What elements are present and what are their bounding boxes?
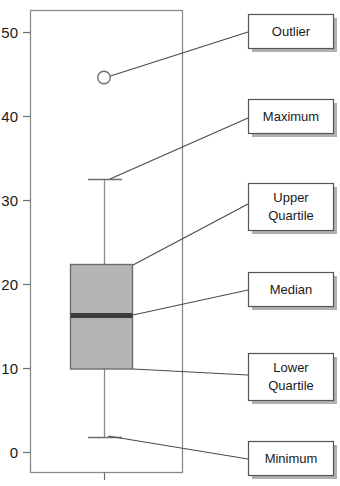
leader-line-lower-quartile (133, 369, 248, 375)
callout-shadows (252, 18, 337, 479)
y-tick-label-30: 30 (1, 192, 18, 209)
callout-maximum[interactable]: Maximum (249, 100, 334, 134)
callout-label-upper-quartile-line1: Upper (273, 190, 309, 205)
callout-upper-quartile[interactable]: Upper Quartile (249, 184, 334, 231)
leader-line-upper-quartile (133, 204, 248, 265)
y-tick-label-50: 50 (1, 24, 18, 41)
callout-median[interactable]: Median (249, 273, 334, 307)
leader-line-median (133, 290, 248, 315)
callout-label-lower-quartile-line2: Quartile (268, 378, 314, 393)
callout-outlier[interactable]: Outlier (249, 15, 334, 49)
leader-lines (108, 32, 248, 459)
callout-label-minimum: Minimum (265, 451, 318, 466)
box-plot-canvas: 50 40 30 20 10 0 (0, 0, 340, 486)
callout-lower-quartile[interactable]: Lower Quartile (249, 354, 334, 401)
boxplot-group (71, 71, 133, 437)
leader-line-maximum (110, 118, 248, 179)
y-axis-ticks (23, 33, 31, 453)
y-tick-label-20: 20 (1, 276, 18, 293)
y-tick-label-40: 40 (1, 108, 18, 125)
y-axis-tick-labels: 50 40 30 20 10 0 (1, 24, 18, 461)
callout-label-median: Median (270, 282, 313, 297)
callout-minimum[interactable]: Minimum (249, 442, 334, 476)
leader-line-outlier (111, 32, 249, 76)
outlier-point (98, 71, 110, 83)
callout-label-maximum: Maximum (263, 109, 319, 124)
y-tick-label-0: 0 (10, 444, 18, 461)
callout-label-lower-quartile-line1: Lower (273, 360, 309, 375)
box-plot-figure: 50 40 30 20 10 0 (0, 0, 340, 486)
leader-line-minimum (108, 436, 248, 459)
callout-label-upper-quartile-line2: Quartile (268, 208, 314, 223)
callout-label-outlier: Outlier (272, 24, 311, 39)
y-tick-label-10: 10 (1, 360, 18, 377)
